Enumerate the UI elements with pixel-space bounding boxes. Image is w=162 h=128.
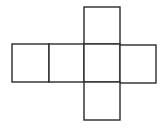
face-top: [84, 7, 120, 44]
cube-net-diagram: [0, 0, 162, 128]
face-center: [84, 44, 120, 82]
face-right: [120, 45, 156, 83]
face-bottom: [84, 82, 120, 120]
face-left-2: [49, 44, 84, 82]
face-left-1: [12, 44, 49, 82]
